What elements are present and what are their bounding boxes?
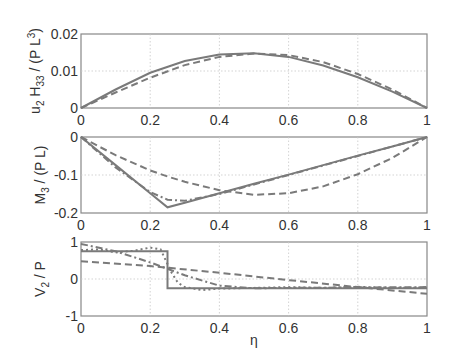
y-axis-label: V2 / P xyxy=(32,261,51,297)
y-axis-label: M3 / (P L) xyxy=(32,146,51,205)
displacement-panel: 00.20.40.60.810.020.010u2 H33 / (P L3) xyxy=(26,26,431,128)
x-tick-label: 0.6 xyxy=(279,217,299,233)
shear-panel: 00.20.40.60.8110-1V2 / P xyxy=(32,234,431,336)
x-tick-label: 0.8 xyxy=(348,217,368,233)
x-tick-label: 0.8 xyxy=(348,112,368,128)
x-tick-label: 0.2 xyxy=(140,112,160,128)
x-tick-label: 0.4 xyxy=(210,320,230,336)
x-tick-label: 0.2 xyxy=(140,320,160,336)
y-tick-label: 0 xyxy=(70,100,78,116)
y-tick-label: 0 xyxy=(70,271,78,287)
x-tick-label: 1 xyxy=(423,320,431,336)
x-tick-label: 0.6 xyxy=(279,320,299,336)
x-tick-label: 0 xyxy=(77,112,85,128)
x-tick-label: 0.6 xyxy=(279,112,299,128)
y-tick-label: 0.01 xyxy=(51,63,78,79)
x-tick-label: 1 xyxy=(423,217,431,233)
x-tick-label: 0.4 xyxy=(210,217,230,233)
x-tick-label: 0.8 xyxy=(348,320,368,336)
x-tick-label: 0 xyxy=(77,217,85,233)
moment-panel: 00.20.40.60.810-0.1-0.2M3 / (P L) xyxy=(32,129,431,233)
x-axis-label: η xyxy=(250,332,258,348)
y-tick-label: -0.2 xyxy=(54,205,78,221)
x-tick-label: 0.4 xyxy=(210,112,230,128)
y-axis-label: u2 H33 / (P L3) xyxy=(26,28,46,114)
x-tick-label: 0.2 xyxy=(140,217,160,233)
x-tick-label: 1 xyxy=(423,112,431,128)
y-tick-label: -0.1 xyxy=(54,167,78,183)
y-tick-label: 1 xyxy=(70,234,78,250)
y-tick-label: -1 xyxy=(66,308,79,324)
y-tick-label: 0 xyxy=(70,129,78,145)
y-tick-label: 0.02 xyxy=(51,26,78,42)
x-tick-label: 0 xyxy=(77,320,85,336)
figure: 00.20.40.60.810.020.010u2 H33 / (P L3)00… xyxy=(0,0,455,364)
